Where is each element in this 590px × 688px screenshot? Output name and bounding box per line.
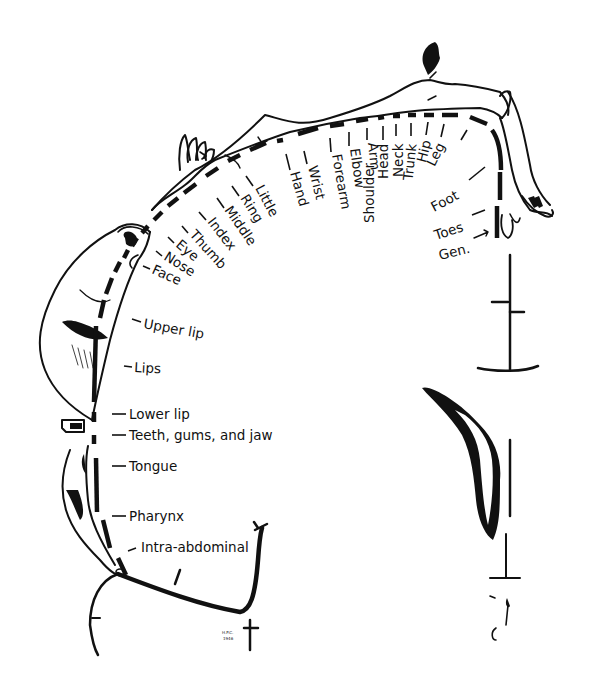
label-tongue: Tongue [128,458,177,474]
artist-signature-year: 1946 [223,636,234,641]
label-teeth-gums-jaw: Teeth, gums, and jaw [128,427,273,443]
body-part-labels: Little Ring Middle Index Thumb Eye Nose … [128,138,471,555]
label-lower-lip: Lower lip [129,406,190,422]
label-upper-lip: Upper lip [142,315,205,341]
midline-section-figures [422,255,538,640]
label-lips: Lips [134,359,162,376]
label-foot: Foot [428,187,461,215]
label-head: Head [375,144,391,179]
homunculus-diagram: H.P.C. 1946 [0,0,590,688]
label-toes: Toes [431,219,465,244]
label-genitals: Gen. [437,240,472,263]
body-outline-illustration [152,42,553,238]
label-intra-abdominal: Intra-abdominal [141,539,249,555]
label-pharynx: Pharynx [129,508,184,524]
artist-signature-initials: H.P.C. [222,630,233,635]
